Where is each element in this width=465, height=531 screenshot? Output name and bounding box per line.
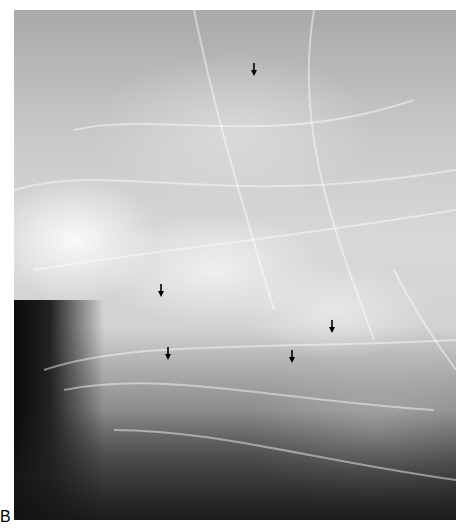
arrow-down-icon: [158, 284, 164, 297]
arrow-down-icon: [289, 350, 295, 363]
panel-label: B: [0, 508, 11, 526]
arrow-down-icon: [251, 63, 257, 76]
arrow-down-icon: [165, 347, 171, 360]
arrow-down-icon: [329, 320, 335, 333]
arrow-layer: [0, 0, 465, 531]
